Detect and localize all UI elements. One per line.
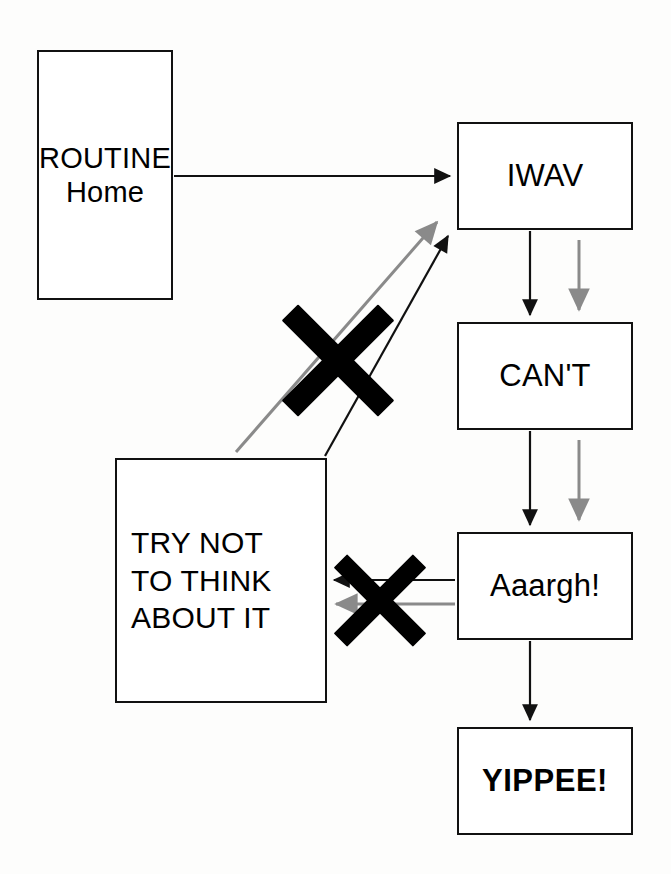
cross-bar-b (282, 304, 394, 416)
cross-out-x-icon-upper (278, 300, 398, 420)
node-routine-home-label: ROUTINE Home (39, 141, 171, 209)
node-yippee[interactable]: YIPPEE! (457, 727, 633, 835)
edge-trynot-to-iwav-gray (236, 222, 437, 452)
node-try-not-to-think-about-it[interactable]: TRY NOT TO THINK ABOUT IT (115, 458, 327, 703)
cross-out-x-icon-lower (330, 550, 430, 650)
diagram-canvas: ROUTINE Home IWAV CAN'T Aaargh! YIPPEE! … (0, 0, 671, 874)
node-iwav-label: IWAV (507, 158, 584, 195)
node-try-not-to-think-about-it-label: TRY NOT TO THINK ABOUT IT (131, 524, 272, 637)
node-iwav[interactable]: IWAV (457, 122, 633, 230)
cross-bar-a (334, 554, 427, 647)
node-cant-label: CAN'T (499, 358, 590, 395)
node-yippee-label: YIPPEE! (482, 763, 608, 800)
node-cant[interactable]: CAN'T (457, 322, 633, 430)
edge-trynot-to-iwav (325, 236, 448, 456)
cross-bar-b (334, 554, 427, 647)
node-aaargh[interactable]: Aaargh! (457, 532, 633, 640)
node-aaargh-label: Aaargh! (490, 568, 600, 605)
node-routine-home[interactable]: ROUTINE Home (37, 50, 173, 300)
cross-bar-a (282, 304, 394, 416)
